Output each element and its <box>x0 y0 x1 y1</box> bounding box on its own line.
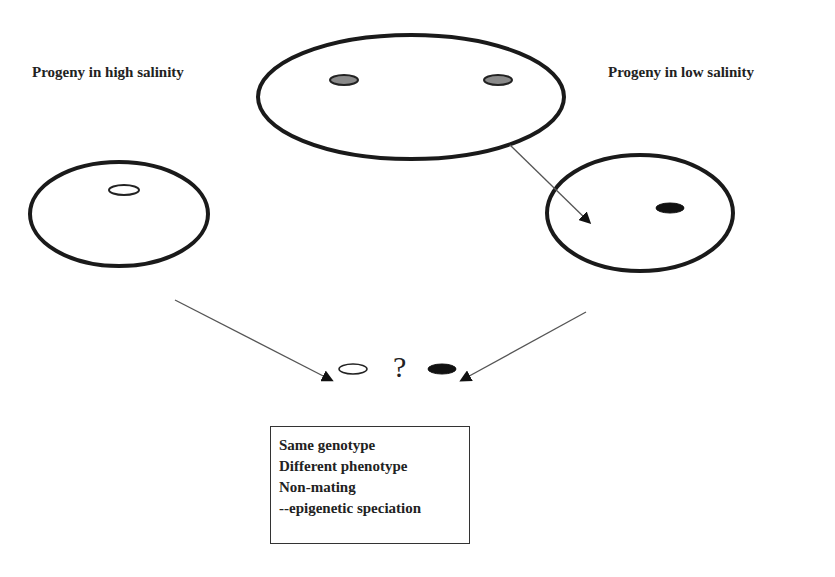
note-line: --epigenetic speciation <box>279 498 469 519</box>
question-mark: ? <box>393 350 406 384</box>
arrow-low-to-compare <box>462 312 586 380</box>
low-salinity-dish <box>547 155 733 271</box>
high-salinity-label: Progeny in high salinity <box>32 64 184 81</box>
compare-black-cell-icon <box>428 364 456 374</box>
note-box: Same genotype Different phenotype Non-ma… <box>270 426 470 544</box>
black-cell-icon <box>656 203 684 213</box>
note-line: Non-mating <box>279 477 469 498</box>
compare-white-cell-icon <box>339 364 367 374</box>
note-line: Same genotype <box>279 435 469 456</box>
arrow-parent-to-low <box>510 145 589 222</box>
parent-culture-dish <box>258 35 564 159</box>
high-salinity-dish <box>30 162 208 266</box>
parent-cell-left <box>330 75 358 85</box>
arrow-high-to-compare <box>175 300 331 380</box>
white-cell-icon <box>109 185 139 195</box>
note-line: Different phenotype <box>279 456 469 477</box>
parent-cell-right <box>484 75 512 85</box>
low-salinity-label: Progeny in low salinity <box>608 64 754 81</box>
